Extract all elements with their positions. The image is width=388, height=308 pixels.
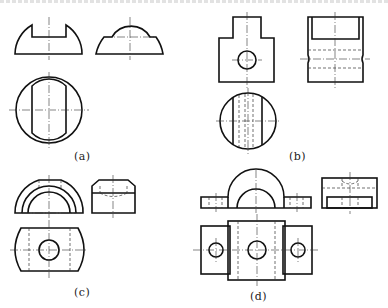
panel-d-label: (d): [250, 290, 267, 303]
panel-b-side-view: [300, 12, 370, 88]
panel-c: [10, 175, 135, 278]
panel-d: [193, 169, 377, 286]
panel-c-side-view: [92, 175, 135, 218]
panel-d-side-view: [322, 172, 377, 214]
panel-b-label: (b): [289, 150, 306, 163]
panel-d-top-view: [193, 214, 320, 286]
panel-b-top-view: [216, 88, 281, 154]
panel-a-front-view: [15, 17, 82, 60]
panel-c-top-view: [10, 220, 88, 278]
drawing-canvas: [0, 0, 388, 308]
panel-d-front-view: [201, 169, 311, 213]
panel-b-front-view: [219, 12, 274, 88]
panel-a-label: (a): [74, 150, 91, 163]
panel-c-label: (c): [74, 286, 90, 299]
panel-a-side-view: [96, 17, 163, 60]
panel-a: [9, 17, 163, 148]
panel-a-top-view: [9, 72, 89, 148]
panel-c-front-view: [15, 175, 83, 218]
panel-b: [216, 12, 370, 154]
